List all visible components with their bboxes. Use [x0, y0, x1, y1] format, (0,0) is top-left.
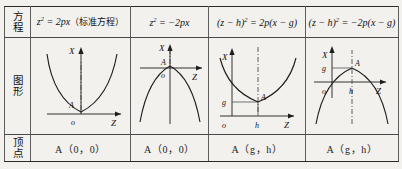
figure-2: X Z A o — [131, 38, 208, 134]
figure-1-vertex-label: A — [68, 101, 74, 110]
figure-3-svg: X Z A g h o — [210, 38, 304, 132]
vertex-cell-1: A（0，0） — [31, 135, 131, 162]
figure-3-g-label: g — [222, 98, 226, 107]
figure-1-origin-label: o — [71, 118, 75, 127]
figure-4-h-label: h — [349, 87, 353, 96]
figure-2-x-label: X — [158, 43, 165, 53]
equation-2-lhs-exp: 2 — [153, 16, 156, 23]
figure-4-z-label: Z — [376, 86, 382, 96]
equation-4-rhs: = −2p(x − g) — [342, 17, 396, 28]
figure-2-vertex-label: A — [160, 58, 166, 67]
figure-3: X Z A g h o — [209, 38, 305, 134]
parabola-reference-table: 方 程 z2 = 2px（标准方程） z2 = −2px (z − h)2 = … — [4, 6, 399, 162]
figure-4-origin-label: o — [322, 87, 326, 96]
equation-cell-4: (z − h)2 = −2p(x − g) — [306, 7, 399, 38]
figure-row: 图 形 — [5, 38, 399, 135]
figure-1: X Z A o — [31, 38, 130, 134]
row-label-figure-line2: 形 — [5, 86, 30, 97]
figure-1-z-arrow — [115, 111, 121, 116]
row-label-figure: 图 形 — [5, 38, 31, 135]
row-label-equation: 方 程 — [5, 7, 31, 38]
row-label-vertex-line2: 点 — [5, 148, 30, 159]
figure-3-z-label: Z — [284, 120, 290, 130]
figure-1-svg: X Z A o — [33, 38, 129, 132]
figure-1-curve — [47, 54, 117, 112]
vertex-cell-4: A（g，h） — [306, 135, 399, 162]
figure-3-z-arrow — [288, 113, 294, 118]
figure-4-x-label: X — [321, 50, 328, 60]
figure-cell-2: X Z A o — [131, 38, 209, 135]
vertex-row: 顶 点 A（0，0） A（0，0） A（g，h） A（g，h） — [5, 135, 399, 162]
figure-4-x-arrow — [329, 46, 334, 53]
row-label-equation-line2: 程 — [5, 22, 30, 33]
figure-3-x-label: X — [221, 52, 228, 62]
equation-3-lhs-exp: 2 — [244, 16, 247, 23]
figure-1-z-label: Z — [111, 118, 117, 128]
figure-1-x-arrow — [78, 47, 83, 54]
figure-3-origin-label: o — [222, 121, 226, 130]
figure-cell-3: X Z A g h o — [209, 38, 306, 135]
figure-2-z-label: Z — [192, 72, 198, 82]
figure-4: X Z A g h o — [306, 38, 398, 134]
figure-3-x-arrow — [229, 48, 234, 55]
figure-1-x-label: X — [68, 46, 75, 56]
figure-4-z-arrow — [380, 79, 386, 84]
equation-3-lhs-base: (z − h) — [217, 17, 244, 28]
equation-row: 方 程 z2 = 2px（标准方程） z2 = −2px (z − h)2 = … — [5, 7, 399, 38]
equation-3-rhs: = 2p(x − g) — [250, 17, 297, 28]
equation-1-note: （标准方程） — [70, 18, 124, 28]
equation-4-lhs-base: (z − h) — [309, 17, 336, 28]
vertex-cell-3: A（g，h） — [209, 135, 306, 162]
figure-3-vertex-label: A — [260, 93, 266, 102]
figure-2-x-arrow — [167, 44, 172, 51]
figure-4-vertex-label: A — [354, 59, 360, 68]
equation-4-lhs-exp: 2 — [336, 16, 339, 23]
figure-cell-4: X Z A g h o — [306, 38, 399, 135]
equation-1-lhs-exp: 2 — [41, 15, 44, 22]
figure-2-origin-label: o — [161, 71, 165, 80]
equation-2-rhs: = −2px — [159, 17, 189, 28]
row-label-vertex: 顶 点 — [5, 135, 31, 162]
figure-cell-1: X Z A o — [31, 38, 131, 135]
equation-cell-1: z2 = 2px（标准方程） — [31, 7, 131, 38]
equation-cell-3: (z − h)2 = 2p(x − g) — [209, 7, 306, 38]
figure-4-svg: X Z A g h o — [306, 38, 398, 132]
figure-2-z-arrow — [196, 65, 202, 70]
document-page: 方 程 z2 = 2px（标准方程） z2 = −2px (z − h)2 = … — [0, 0, 402, 169]
equation-1-rhs: = 2px — [46, 17, 70, 28]
figure-3-h-label: h — [255, 121, 259, 130]
vertex-cell-2: A（0，0） — [131, 135, 209, 162]
figure-2-svg: X Z A o — [132, 38, 208, 132]
figure-4-g-label: g — [322, 64, 326, 73]
equation-cell-2: z2 = −2px — [131, 7, 209, 38]
